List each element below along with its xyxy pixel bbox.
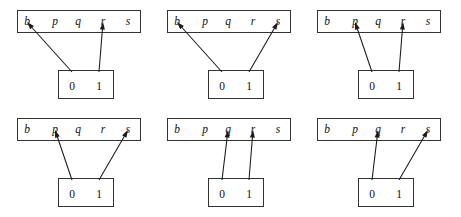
bit-cell-label: 0 — [369, 80, 375, 92]
bit-box — [209, 71, 264, 99]
record-field-label: b — [324, 15, 330, 27]
diagram-panel: bpqrs01 — [0, 108, 150, 216]
diagram-panel: bpqrs01 — [150, 108, 300, 216]
bit-cell-label: 0 — [69, 188, 75, 200]
pointer-arrow-1-to-r-shaft — [249, 136, 252, 180]
pointer-arrow-1-to-s-shaft — [399, 136, 425, 180]
pointer-arrow-0-to-p-shaft — [357, 28, 372, 72]
pointer-arrow-0-to-b-shaft — [181, 27, 222, 72]
panel-canvas: bpqrs01 — [150, 0, 300, 108]
figure-root: bpqrs01bpqrs01bpqrs01bpqrs01bpqrs01bpqrs… — [0, 0, 461, 217]
pointer-arrow-0-to-b-shaft — [31, 27, 72, 72]
record-field-label: r — [101, 123, 106, 135]
diagram-panel: bpqrs01 — [0, 0, 150, 108]
bit-box — [59, 179, 114, 207]
panel-canvas: bpqrs01 — [300, 0, 450, 108]
bit-cell-label: 1 — [246, 188, 252, 200]
record-field-label: q — [225, 15, 231, 28]
bit-box — [359, 179, 414, 207]
record-field-label: s — [426, 15, 431, 27]
bit-box — [359, 71, 414, 99]
record-field-label: p — [51, 15, 58, 28]
pointer-arrow-1-to-s-shaft — [249, 28, 275, 72]
record-field-label: q — [75, 15, 81, 28]
panel-canvas: bpqrs01 — [0, 108, 150, 216]
bit-cell-label: 0 — [69, 80, 75, 92]
record-field-label: p — [201, 15, 208, 28]
record-field-label: p — [201, 123, 208, 136]
record-field-label: b — [324, 123, 330, 135]
bit-cell-label: 1 — [96, 80, 102, 92]
panel-canvas: bpqrs01 — [0, 0, 150, 108]
bit-cell-label: 1 — [396, 80, 402, 92]
panel-canvas: bpqrs01 — [150, 108, 300, 216]
bit-cell-label: 0 — [219, 80, 225, 92]
diagram-panel: bpqrs01 — [150, 0, 300, 108]
panel-canvas: bpqrs01 — [300, 108, 450, 216]
record-field-label: r — [251, 15, 256, 27]
record-field-label: q — [375, 15, 381, 28]
bit-cell-label: 0 — [219, 188, 225, 200]
pointer-arrow-0-to-q-shaft — [372, 136, 377, 180]
record-field-label: s — [126, 15, 131, 27]
record-field-label: r — [401, 123, 406, 135]
bit-cell-label: 1 — [96, 188, 102, 200]
record-field-label: p — [351, 123, 358, 136]
bit-box — [209, 179, 264, 207]
diagram-panel: bpqrs01 — [300, 0, 450, 108]
record-field-label: b — [174, 123, 180, 135]
bit-cell-label: 1 — [396, 188, 402, 200]
pointer-arrow-1-to-r-shaft — [399, 28, 402, 72]
record-field-label: b — [24, 123, 30, 135]
pointer-arrow-0-to-p-shaft — [57, 136, 72, 180]
record-field-label: q — [75, 123, 81, 136]
diagram-panel: bpqrs01 — [300, 108, 450, 216]
pointer-arrow-1-to-r-shaft — [99, 28, 102, 72]
record-field-label: s — [276, 123, 281, 135]
pointer-arrow-1-to-s-shaft — [99, 136, 125, 180]
bit-cell-label: 0 — [369, 188, 375, 200]
bit-cell-label: 1 — [246, 80, 252, 92]
bit-box — [59, 71, 114, 99]
pointer-arrow-0-to-q-shaft — [222, 136, 227, 180]
